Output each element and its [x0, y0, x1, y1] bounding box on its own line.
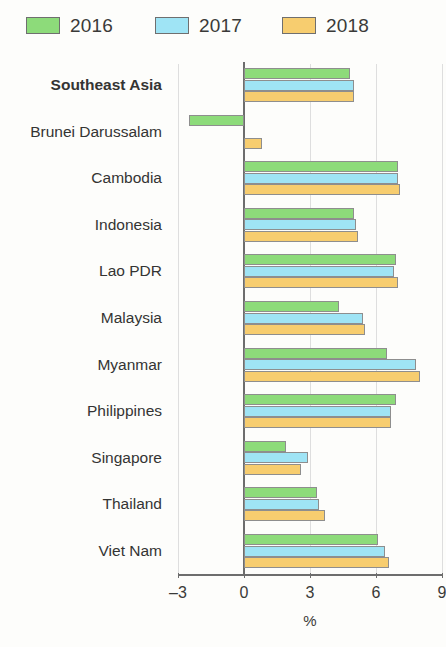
category-label: Southeast Asia [51, 76, 162, 94]
category-label: Lao PDR [99, 262, 162, 280]
bar-2018 [244, 324, 365, 335]
legend-item-2016: 2016 [26, 12, 113, 38]
category-label: Indonesia [95, 216, 162, 234]
bar-2016 [244, 161, 398, 172]
x-axis-tick [376, 573, 377, 578]
bar-2018 [244, 417, 391, 428]
bar-2017 [244, 452, 308, 463]
legend-item-2017: 2017 [155, 12, 242, 38]
bar-2016 [244, 68, 350, 79]
x-axis-tick-label: 9 [438, 584, 446, 602]
plot-area: Southeast AsiaBrunei DarussalamCambodiaI… [0, 62, 442, 597]
legend-swatch-2017 [155, 17, 189, 34]
bar-2018 [244, 231, 358, 242]
chart-legend: 2016 2017 2018 [0, 12, 442, 46]
category-label: Brunei Darussalam [30, 123, 162, 141]
legend-label-2016: 2016 [70, 16, 113, 35]
x-axis-tick-label: 3 [306, 584, 315, 602]
category-label: Malaysia [101, 309, 162, 327]
bar-2018 [244, 277, 398, 288]
bar-2017 [244, 499, 319, 510]
x-axis-tick-label: 6 [372, 584, 381, 602]
gridline [178, 64, 179, 576]
category-label: Singapore [91, 449, 162, 467]
bar-2017 [244, 546, 385, 557]
category-label: Thailand [103, 495, 162, 513]
bar-2018 [244, 371, 420, 382]
bar-2018 [244, 557, 389, 568]
bar-2017 [244, 406, 391, 417]
bar-2017 [244, 219, 356, 230]
bar-2017 [244, 313, 363, 324]
x-axis-tick [442, 573, 443, 578]
bar-2018 [244, 184, 400, 195]
bar-2018 [244, 464, 301, 475]
bars-and-grid: % –30369 [178, 62, 442, 589]
x-axis-title: % [178, 612, 442, 629]
bar-2018 [244, 138, 262, 149]
legend-swatch-2016 [26, 17, 60, 34]
category-axis-labels: Southeast AsiaBrunei DarussalamCambodiaI… [0, 62, 170, 589]
category-label: Viet Nam [99, 542, 162, 560]
x-axis-tick [178, 573, 179, 578]
x-axis-tick-label: –3 [169, 584, 187, 602]
bar-2017 [244, 359, 416, 370]
bar-2016 [244, 394, 396, 405]
bar-2016 [244, 348, 387, 359]
bar-2018 [244, 91, 354, 102]
x-axis-tick [310, 573, 311, 578]
bar-2016 [244, 208, 354, 219]
bar-2016 [244, 441, 286, 452]
bar-2016 [244, 254, 396, 265]
legend-swatch-2018 [282, 17, 316, 34]
legend-label-2017: 2017 [199, 16, 242, 35]
x-axis-tick-label: 0 [240, 584, 249, 602]
bar-2017 [244, 80, 354, 91]
legend-item-2018: 2018 [282, 12, 369, 38]
category-label: Myanmar [97, 356, 162, 374]
legend-label-2018: 2018 [326, 16, 369, 35]
bar-2018 [244, 510, 325, 521]
category-label: Philippines [87, 402, 162, 420]
bar-2016 [189, 115, 244, 126]
bar-2017 [244, 266, 394, 277]
gridline [442, 64, 443, 576]
category-label: Cambodia [91, 169, 162, 187]
bar-2016 [244, 534, 378, 545]
bar-2017 [244, 173, 398, 184]
bar-2016 [244, 487, 317, 498]
gridline [376, 64, 377, 576]
bar-2016 [244, 301, 339, 312]
